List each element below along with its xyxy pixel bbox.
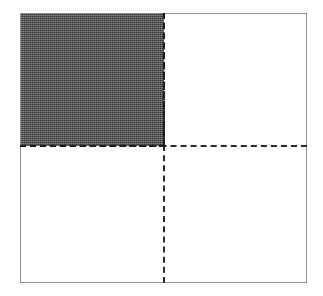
- quadrant-bottom-left[interactable]: [21, 147, 163, 282]
- quadrant-top-left[interactable]: [21, 14, 163, 145]
- figure-canvas: [0, 0, 323, 296]
- quadrant-bottom-right[interactable]: [165, 147, 306, 282]
- quadrant-top-right[interactable]: [165, 14, 306, 145]
